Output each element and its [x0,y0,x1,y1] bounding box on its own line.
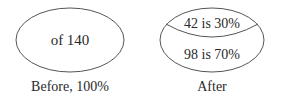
after-caption: After [197,79,227,94]
before-group: of 140 Before, 100% [16,8,124,94]
after-top-label: 42 is 30% [184,16,240,31]
before-caption: Before, 100% [31,79,109,94]
after-group: 42 is 30% 98 is 70% After [160,8,264,94]
after-bottom-label: 98 is 70% [184,47,240,62]
percent-diagram: of 140 Before, 100% 42 is 30% 98 is 70% … [0,0,285,100]
before-inner-label: of 140 [51,32,90,48]
